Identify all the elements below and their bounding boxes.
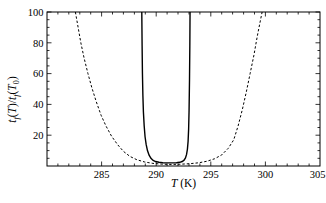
y-tick-label: 80 [33, 38, 44, 49]
plot-frame [47, 12, 320, 166]
y-tick-label: 60 [33, 68, 44, 79]
x-tick-label: 285 [94, 169, 110, 180]
y-tick-label: 40 [33, 99, 44, 110]
figure: 28529029530030520406080100 tf(T)/tf(T0) … [0, 0, 326, 203]
x-tick-label: 300 [258, 169, 274, 180]
chart-svg: 28529029530030520406080100 [0, 0, 326, 203]
y-axis-label: tf(T)/tf(T0) [6, 40, 23, 160]
x-tick-label: 305 [310, 169, 326, 180]
y-tick-label: 100 [28, 7, 44, 18]
y-tick-label: 20 [33, 130, 44, 141]
wide-dashed-curve [75, 12, 262, 164]
x-axis-label: T (K) [143, 177, 224, 189]
narrow-solid-curve [142, 12, 190, 163]
